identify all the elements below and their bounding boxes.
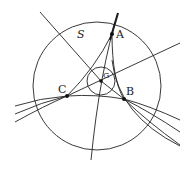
arc-a-b <box>112 34 124 99</box>
curve-left-3 <box>15 96 67 122</box>
label-s: S <box>77 28 85 41</box>
geometric-diagram: S A B C G <box>0 0 194 170</box>
curve-left-2 <box>15 96 67 114</box>
point-a <box>110 32 114 36</box>
curve-right-3 <box>124 99 180 145</box>
curve-right-2 <box>124 99 180 132</box>
line-c-to-upperright <box>67 43 180 96</box>
circle-s <box>33 22 161 150</box>
label-b: B <box>126 85 134 98</box>
label-c: C <box>58 83 66 96</box>
arc-c-b <box>67 95 124 99</box>
label-a: A <box>115 28 125 41</box>
curve-left-1 <box>15 96 67 106</box>
line-upperleft-to-b <box>40 12 124 99</box>
label-g: G <box>103 71 109 80</box>
curve-ab-extended <box>112 60 180 146</box>
